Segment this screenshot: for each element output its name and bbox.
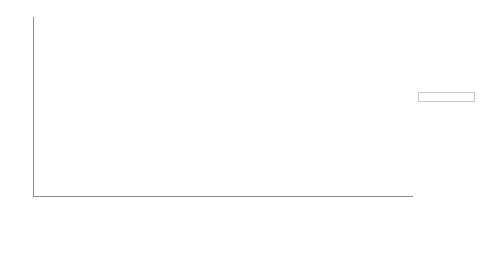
stacked-bar-chart: [0, 0, 481, 266]
x-axis-ticks: [34, 196, 412, 200]
x-axis-category-labels: [34, 202, 412, 260]
bar-series-container: [34, 17, 412, 196]
chart-legend: [418, 92, 475, 102]
